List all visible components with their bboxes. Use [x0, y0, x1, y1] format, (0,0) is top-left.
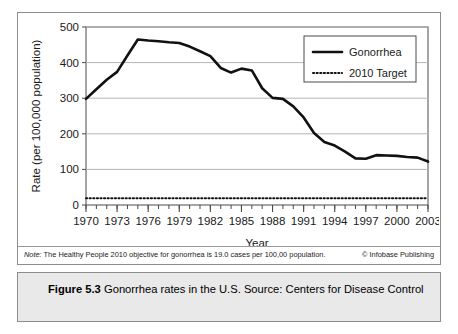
y-axis-tick-label: 300 — [60, 92, 79, 104]
x-axis-tick-label: 1988 — [260, 215, 286, 227]
x-axis-tick-label: 1982 — [198, 215, 224, 227]
x-axis-tick-label: 1970 — [73, 215, 99, 227]
x-axis-tick-label: 1991 — [291, 215, 317, 227]
y-axis-tick-label: 100 — [60, 163, 79, 175]
legend-label: Gonorrhea — [349, 46, 402, 58]
y-axis-title: Rate (per 100,000 population) — [30, 39, 42, 192]
figure-caption-body: Gonorrhea rates in the U.S. Source: Cent… — [104, 283, 424, 295]
y-axis-tick-label: 0 — [73, 199, 79, 211]
x-axis-tick-label: 1985 — [229, 215, 255, 227]
x-axis-tick-label: 2000 — [384, 215, 410, 227]
x-axis-tick-label: 1994 — [322, 215, 348, 227]
caption-panel: Figure 5.3 Gonorrhea rates in the U.S. S… — [17, 272, 441, 322]
figure-caption: Figure 5.3 Gonorrhea rates in the U.S. S… — [48, 281, 426, 297]
x-axis-tick-label: 1973 — [104, 215, 130, 227]
x-axis-tick-label: 1976 — [135, 215, 161, 227]
y-axis-tick-label: 500 — [60, 21, 79, 33]
note-body-text: The Healthy People 2010 objective for go… — [44, 250, 326, 259]
x-axis-tick-label: 1979 — [166, 215, 192, 227]
x-axis-tick-label: 2003 — [415, 215, 439, 227]
legend-label: 2010 Target — [349, 67, 407, 79]
y-axis-tick-label: 200 — [60, 128, 79, 140]
note-row: Note: The Healthy People 2010 objective … — [18, 246, 440, 264]
chart-plot-area: 0100200300400500197019731976197919821985… — [18, 13, 439, 247]
chart-note: Note: The Healthy People 2010 objective … — [24, 250, 325, 259]
figure-container: 0100200300400500197019731976197919821985… — [0, 0, 458, 334]
note-lead-label: Note: — [24, 250, 42, 259]
y-axis-tick-label: 400 — [60, 57, 79, 69]
x-axis-tick-label: 1997 — [353, 215, 379, 227]
gonorrhea-rate-line-chart: 0100200300400500197019731976197919821985… — [18, 13, 439, 247]
chart-panel: 0100200300400500197019731976197919821985… — [17, 12, 441, 265]
publisher-credit: © Infobase Publishing — [362, 250, 434, 259]
figure-number-label: Figure 5.3 — [48, 283, 101, 295]
